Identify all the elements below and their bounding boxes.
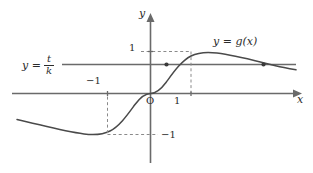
label-origin: O [146, 96, 154, 106]
label-y-axis: y [139, 8, 145, 19]
fraction-t-over-k: t k [44, 54, 54, 76]
tick-marks [108, 52, 192, 97]
label-curve-equation: y = g(x) [213, 36, 257, 47]
fraction-numerator: t [45, 54, 53, 65]
graph-canvas [0, 0, 313, 173]
fraction-denominator: k [44, 66, 54, 77]
math-figure: y = t k y = g(x) y x O 1 −1 1 −1 [0, 0, 313, 173]
y-axis [147, 13, 155, 163]
label-x-tick-one: 1 [174, 96, 180, 106]
label-x-tick-negative-one: −1 [86, 76, 101, 86]
intersection-dot-left [164, 62, 168, 66]
label-y-tick-negative-one: −1 [161, 130, 176, 140]
label-line-equation-lhs: y = [22, 60, 41, 71]
intersection-dot-right [261, 62, 265, 66]
label-line-equation: y = t k [22, 54, 54, 76]
label-x-axis: x [297, 94, 303, 105]
label-y-tick-one: 1 [129, 43, 135, 53]
